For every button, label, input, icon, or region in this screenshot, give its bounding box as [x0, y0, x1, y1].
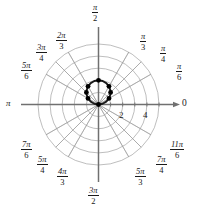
angle-label-225deg-denominator: 4: [37, 165, 48, 174]
angle-label-45deg-denominator: 4: [160, 54, 166, 63]
angle-label-120deg: 2π3: [56, 31, 67, 50]
angle-label-210deg-numerator: 7π: [21, 140, 32, 150]
angle-label-150deg-denominator: 6: [21, 71, 32, 80]
angle-label-300deg: 5π3: [135, 167, 146, 186]
data-point-4: [86, 84, 91, 89]
angle-label-30deg: π6: [176, 62, 182, 81]
angle-label-pi-over-2: π 2: [92, 3, 98, 22]
angle-label-30deg-numerator: π: [176, 62, 182, 72]
angle-label-45deg: π4: [160, 44, 166, 63]
angle-label-240deg: 4π3: [57, 167, 68, 186]
angle-label-3pi-over-2: 3π 2: [88, 186, 99, 205]
angle-label-135deg: 3π4: [36, 43, 47, 62]
angle-label-pi: π: [6, 99, 11, 108]
angle-label-pi-over-2-numerator: π: [92, 3, 98, 13]
angle-label-210deg: 7π6: [21, 140, 32, 159]
angle-label-240deg-denominator: 3: [57, 177, 68, 186]
angle-label-225deg: 5π4: [37, 155, 48, 174]
angle-label-135deg-denominator: 4: [36, 53, 47, 62]
polar-plot-figure: 0 π π 2 3π 2 π6π4π32π33π45π67π65π44π35π3…: [0, 0, 201, 207]
angle-label-300deg-denominator: 3: [135, 177, 146, 186]
data-point-2: [107, 84, 112, 89]
angle-label-300deg-numerator: 5π: [135, 167, 146, 177]
data-point-7: [96, 102, 101, 107]
angle-label-150deg-numerator: 5π: [21, 61, 32, 71]
angle-label-315deg-denominator: 4: [156, 165, 167, 174]
polar-plot-canvas: [0, 0, 201, 207]
angle-label-120deg-denominator: 3: [56, 41, 67, 50]
data-point-5: [84, 90, 89, 95]
angle-label-315deg: 7π4: [156, 155, 167, 174]
radial-tick-label-2: 2: [119, 111, 124, 120]
angle-label-120deg-numerator: 2π: [56, 31, 67, 41]
data-point-0: [107, 96, 112, 101]
angle-label-330deg-numerator: 11π: [170, 140, 184, 150]
radial-tick-label-4: 4: [143, 111, 148, 120]
angle-label-225deg-numerator: 5π: [37, 155, 48, 165]
data-point-3: [96, 78, 101, 83]
angle-label-210deg-denominator: 6: [21, 150, 32, 159]
angle-label-pi-over-2-denominator: 2: [92, 13, 98, 22]
angle-label-30deg-denominator: 6: [176, 72, 182, 81]
angle-label-60deg: π3: [140, 32, 146, 51]
angle-label-60deg-denominator: 3: [140, 42, 146, 51]
angle-label-240deg-numerator: 4π: [57, 167, 68, 177]
data-point-6: [86, 96, 91, 101]
angle-label-150deg: 5π6: [21, 61, 32, 80]
axis-arrow-right: [173, 102, 180, 108]
angle-label-315deg-numerator: 7π: [156, 155, 167, 165]
angle-label-135deg-numerator: 3π: [36, 43, 47, 53]
angle-label-0: 0: [182, 99, 187, 109]
angle-label-330deg: 11π6: [170, 140, 184, 159]
angle-label-45deg-numerator: π: [160, 44, 166, 54]
angle-label-330deg-denominator: 6: [170, 150, 184, 159]
data-point-1: [108, 90, 113, 95]
angle-label-3pi-over-2-denominator: 2: [88, 196, 99, 205]
angle-label-3pi-over-2-numerator: 3π: [88, 186, 99, 196]
angle-label-60deg-numerator: π: [140, 32, 146, 42]
